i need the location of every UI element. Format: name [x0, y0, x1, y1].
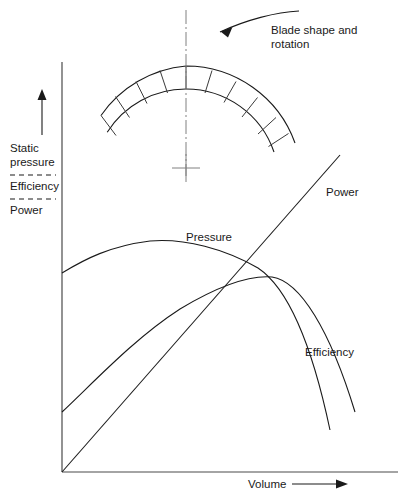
x-axis-arrowhead-icon	[336, 480, 348, 489]
curve-pressure	[62, 241, 330, 430]
curve-label-pressure: Pressure	[186, 231, 232, 243]
blade-divider	[101, 116, 116, 136]
blade-divider	[205, 71, 212, 94]
curve-power	[62, 155, 340, 472]
curve-efficiency	[62, 277, 355, 412]
blade-divider	[224, 82, 236, 103]
blade-divider	[160, 71, 168, 94]
curve-label-power: Power	[326, 186, 359, 198]
y-axis-label-efficiency: Efficiency	[10, 180, 59, 192]
x-axis-label-group: Volume	[248, 478, 348, 490]
blade-outer-arc	[101, 66, 295, 143]
blade-note-line1: Blade shape and	[271, 24, 357, 36]
fan-performance-figure: Blade shape and rotation Static pressure…	[0, 0, 405, 497]
chart-axes	[62, 62, 398, 472]
blade-divider	[269, 134, 289, 147]
y-axis-label-power: Power	[10, 204, 43, 216]
blade-diagram: Blade shape and rotation	[101, 10, 357, 182]
x-axis-label: Volume	[248, 478, 286, 490]
y-axis-label-pressure: pressure	[10, 156, 55, 168]
rotation-center-cross	[172, 154, 200, 182]
blade-inner-arc	[107, 89, 274, 152]
blade-dividers	[101, 66, 289, 147]
y-axis-label-group: Static pressure Efficiency Power	[10, 89, 59, 216]
y-axis-arrow-icon	[38, 89, 47, 135]
chart-curves	[62, 155, 355, 472]
curve-label-efficiency: Efficiency	[305, 346, 354, 358]
blade-note-line2: rotation	[271, 38, 309, 50]
y-axis-label-static: Static	[10, 142, 39, 154]
